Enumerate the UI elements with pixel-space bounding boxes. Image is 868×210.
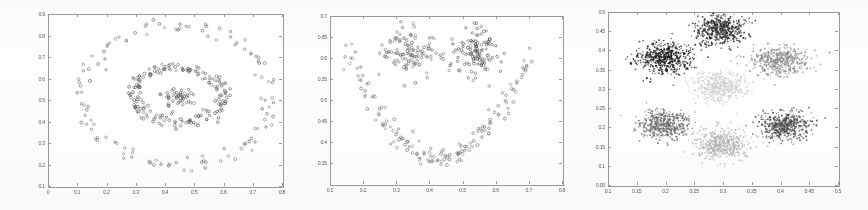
series-cluster-lower-mid [683, 121, 764, 167]
y-axis-tick-label: 0.45 [586, 28, 605, 34]
x-axis-tick-label: 0.8 [559, 187, 566, 193]
y-axis-tick [48, 186, 51, 187]
x-axis-tick-label: 0.35 [747, 188, 756, 194]
y-axis-tick-label: 0.7 [26, 54, 45, 60]
y-axis-tick-label: 0.7 [308, 13, 327, 19]
x-axis-tick-label: 0.6 [492, 187, 499, 193]
x-axis-tick-label: 0.2 [360, 187, 367, 193]
y-axis-tick-label: 0.15 [586, 144, 605, 150]
data-points-layer [608, 12, 838, 185]
x-axis-tick-label: 0.1 [605, 188, 612, 194]
y-axis-tick-label: 0.45 [308, 118, 327, 124]
y-axis-tick-label: 0.1 [586, 163, 605, 169]
x-axis-tick-label: 0.2 [103, 189, 110, 195]
data-points-layer [48, 14, 282, 186]
x-axis-tick-top [838, 12, 839, 15]
x-axis-tick [562, 181, 563, 184]
x-axis-tick-label: 0.15 [632, 188, 641, 194]
y-axis-tick-label: 0.6 [308, 55, 327, 61]
x-axis-tick-top [282, 14, 283, 17]
x-axis-tick-label: 0.5 [191, 189, 198, 195]
y-axis-tick-label: 0.55 [308, 76, 327, 82]
x-axis-tick-label: 0.2 [662, 188, 669, 194]
x-axis-tick-label: 0.1 [327, 187, 334, 193]
series-outer-ring [76, 18, 275, 172]
series-cluster-lower-left [620, 102, 696, 146]
y-axis-tick-right [835, 185, 838, 186]
x-axis-tick-label: 0.3 [720, 188, 727, 194]
y-axis-tick-label: 0.65 [308, 34, 327, 40]
series-smile-arc [342, 43, 533, 166]
y-axis-tick [608, 185, 611, 186]
series-cluster-upper-left [625, 33, 709, 86]
y-axis-tick-label: 0.4 [586, 47, 605, 53]
x-axis-tick-label: 0.4 [426, 187, 433, 193]
y-axis-tick-label: 0.8 [26, 33, 45, 39]
y-axis-tick-label: 0.3 [586, 86, 605, 92]
series-right-eye [442, 21, 506, 87]
x-axis-tick-label: 0.3 [393, 187, 400, 193]
y-axis-tick-label: 0.2 [586, 124, 605, 130]
series-center-blob [159, 87, 196, 107]
x-axis-tick-label: 0.45 [805, 188, 814, 194]
x-axis-tick-label: 0.7 [249, 189, 256, 195]
series-cluster-center-faint [685, 61, 760, 114]
y-axis-tick-label: 0.05 [586, 182, 605, 188]
data-points-layer [330, 16, 562, 184]
x-axis-tick-label: 0.6 [220, 189, 227, 195]
x-axis-tick-label: 0.5 [459, 187, 466, 193]
y-axis-tick-label: 0.6 [26, 76, 45, 82]
y-axis-tick-label: 0.4 [26, 119, 45, 125]
x-axis-tick-label: 0.4 [777, 188, 784, 194]
x-axis-tick-top [562, 16, 563, 19]
y-axis-tick-label: 0.5 [26, 97, 45, 103]
x-axis-tick-label: 0.3 [132, 189, 139, 195]
x-axis-tick [838, 182, 839, 185]
x-axis-tick-label: 0.7 [526, 187, 533, 193]
x-axis-tick [282, 183, 283, 186]
series-cluster-upper-mid [688, 12, 756, 51]
y-axis-tick-label: 0.35 [586, 67, 605, 73]
x-axis-tick-label: 0.4 [162, 189, 169, 195]
x-axis-tick-label: 0 [47, 189, 50, 195]
y-axis-tick-label: 0.5 [586, 9, 605, 15]
y-axis-tick-label: 0.1 [26, 183, 45, 189]
series-left-eye [378, 21, 453, 88]
y-axis-tick-label: 0.35 [308, 160, 327, 166]
x-axis-tick-label: 0.1 [74, 189, 81, 195]
y-axis-tick-label: 0.4 [308, 139, 327, 145]
y-axis-tick-label: 0.5 [308, 97, 327, 103]
series-cluster-lower-right [745, 107, 826, 147]
y-axis-tick-label: 0.2 [26, 162, 45, 168]
series-cluster-upper-right [730, 42, 831, 86]
x-axis-tick-label: 0.25 [690, 188, 699, 194]
y-axis-tick-label: 0.3 [26, 140, 45, 146]
x-axis-tick-label: 0.8 [279, 189, 286, 195]
y-axis-tick-label: 0.9 [26, 11, 45, 17]
y-axis-tick-right [279, 186, 282, 187]
scatter-plot-figure: 00.10.20.30.40.50.60.70.80.10.20.30.40.5… [0, 0, 868, 210]
y-axis-tick-label: 0.25 [586, 105, 605, 111]
x-axis-tick-label: 0.5 [835, 188, 842, 194]
